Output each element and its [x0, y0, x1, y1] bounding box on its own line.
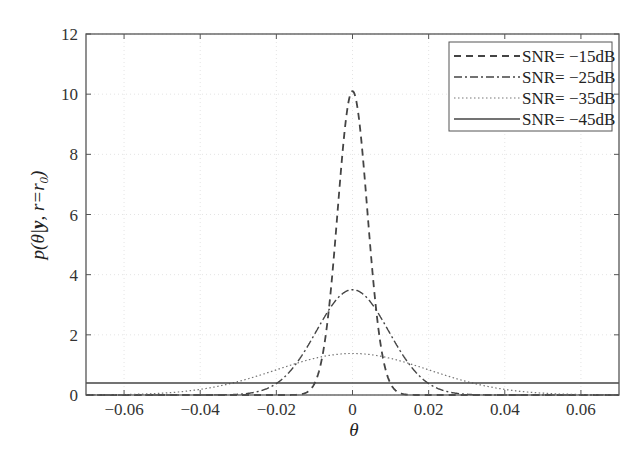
y-tick-label: 12: [61, 25, 78, 44]
y-tick-label: 4: [70, 266, 79, 285]
pdf-line-chart: −0.06−0.04−0.0200.020.040.06 024681012 θ…: [0, 0, 644, 454]
y-axis-label-theta: (θ|: [27, 229, 49, 250]
y-axis-label: p(θ|y, r=r0): [27, 171, 51, 262]
y-tick-labels: 024681012: [61, 25, 79, 405]
y-tick-label: 8: [70, 145, 79, 164]
legend-entry-label: SNR= −25dB: [522, 68, 615, 87]
legend-entry-label: SNR= −15dB: [522, 47, 615, 66]
y-axis-label-close: ): [27, 171, 49, 178]
legend-entry-label: SNR= −35dB: [522, 89, 615, 108]
legend: SNR= −15dBSNR= −25dBSNR= −35dBSNR= −45dB: [449, 42, 615, 131]
y-axis-label-r: , r=r: [27, 183, 48, 221]
x-tick-labels: −0.06−0.04−0.0200.020.040.06: [104, 400, 595, 419]
x-axis-label: θ: [349, 419, 358, 440]
x-tick-label: −0.04: [181, 400, 221, 419]
legend-entry-label: SNR= −45dB: [522, 110, 615, 129]
x-tick-label: −0.06: [104, 400, 143, 419]
series-lines: [86, 91, 619, 395]
y-tick-label: 10: [61, 85, 78, 104]
y-tick-label: 6: [70, 206, 79, 225]
x-tick-label: 0.02: [414, 400, 444, 419]
x-tick-label: 0.06: [566, 400, 596, 419]
y-axis-label-y: y: [27, 220, 48, 231]
y-tick-label: 0: [70, 386, 79, 405]
x-tick-label: 0.04: [490, 400, 520, 419]
series-line: [86, 91, 619, 395]
x-tick-label: −0.02: [257, 400, 296, 419]
y-tick-label: 2: [70, 326, 79, 345]
y-axis-label-p: p: [27, 250, 48, 262]
x-tick-label: 0: [348, 400, 357, 419]
